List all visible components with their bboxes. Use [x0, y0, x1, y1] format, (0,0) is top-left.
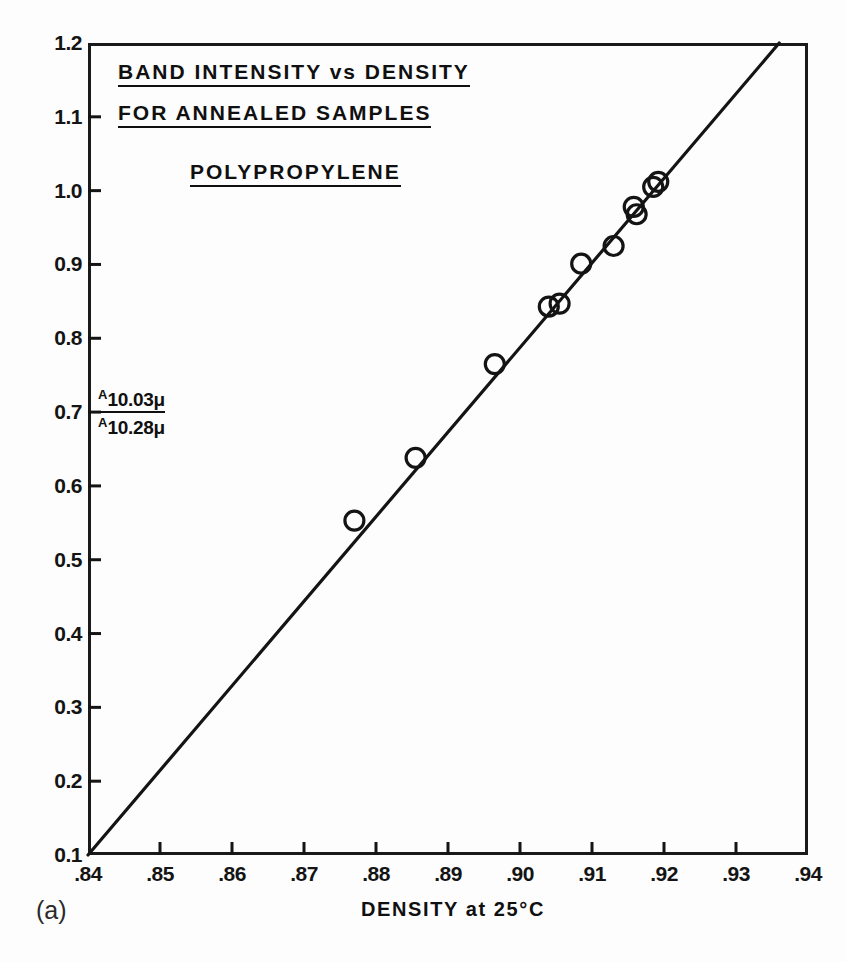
data-point-marker	[649, 172, 668, 191]
numerator-symbol: A	[98, 387, 107, 402]
x-tick-label: .88	[362, 862, 390, 886]
chart-title-line-1: BAND INTENSITY vs DENSITY	[118, 60, 470, 87]
y-tick-label: 0.2	[26, 769, 82, 793]
data-point-marker	[345, 511, 364, 530]
x-tick-label: .90	[506, 862, 534, 886]
y-tick-label: 1.1	[26, 105, 82, 129]
chart-subtitle-wrap: POLYPROPYLENE	[190, 160, 598, 201]
y-axis-labels: 0.10.20.30.40.50.60.70.80.91.01.11.2	[12, 0, 82, 962]
x-tick-label: .93	[722, 862, 750, 886]
chart-title-line-2: FOR ANNEALED SAMPLES	[118, 101, 431, 128]
denominator-value: 10.28μ	[107, 417, 164, 438]
x-tick-label: .94	[794, 862, 822, 886]
x-tick-label: .92	[650, 862, 678, 886]
x-axis-tick-marks	[160, 842, 736, 855]
data-point-marker	[485, 355, 504, 374]
data-point-marker	[644, 177, 663, 196]
x-tick-label: .85	[146, 862, 174, 886]
figure-panel: 0.10.20.30.40.50.60.70.80.91.01.11.2 .84…	[0, 0, 846, 962]
x-tick-label: .86	[218, 862, 246, 886]
data-point-marker	[572, 254, 591, 273]
y-axis-title: A10.03μ A10.28μ	[98, 388, 165, 437]
y-tick-label: 0.3	[26, 695, 82, 719]
x-tick-label: .87	[290, 862, 318, 886]
y-axis-title-numerator: A10.03μ	[98, 388, 165, 413]
y-tick-label: 0.4	[26, 622, 82, 646]
y-tick-label: 1.2	[26, 31, 82, 55]
numerator-value: 10.03μ	[107, 389, 164, 410]
x-tick-label: .89	[434, 862, 462, 886]
data-point-markers	[345, 172, 668, 530]
data-point-marker	[550, 294, 569, 313]
x-axis-title: DENSITY at 25°C	[0, 898, 846, 921]
y-axis-tick-marks	[88, 117, 101, 781]
y-axis-title-denominator: A10.28μ	[98, 413, 165, 437]
panel-label: (a)	[36, 896, 67, 925]
x-tick-label: .91	[578, 862, 606, 886]
x-tick-label: .84	[74, 862, 102, 886]
y-tick-label: 0.7	[26, 400, 82, 424]
denominator-symbol: A	[98, 415, 107, 430]
y-tick-label: 0.9	[26, 252, 82, 276]
chart-subtitle: POLYPROPYLENE	[190, 160, 401, 187]
y-tick-label: 0.6	[26, 474, 82, 498]
data-point-marker	[406, 448, 425, 467]
x-axis-labels: .84.85.86.87.88.89.90.91.92.93.94	[0, 862, 846, 896]
y-tick-label: 0.5	[26, 548, 82, 572]
chart-title-block: BAND INTENSITY vs DENSITY FOR ANNEALED S…	[118, 60, 598, 201]
y-tick-label: 0.8	[26, 326, 82, 350]
y-tick-label: 1.0	[26, 179, 82, 203]
